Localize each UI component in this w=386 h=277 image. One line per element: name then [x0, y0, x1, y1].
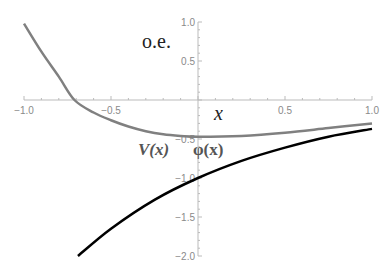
- label-oe: o.e.: [142, 30, 171, 53]
- svg-text:−1.0: −1.0: [14, 105, 34, 116]
- series-φ(x): [78, 129, 372, 256]
- label-x: x: [214, 102, 223, 125]
- svg-text:1.0: 1.0: [181, 17, 195, 28]
- svg-text:0.5: 0.5: [181, 56, 195, 67]
- label-V: V(x): [138, 140, 169, 160]
- svg-text:0.5: 0.5: [278, 105, 292, 116]
- label-phi: φ(x): [193, 140, 223, 160]
- svg-text:−2.0: −2.0: [175, 251, 195, 262]
- svg-text:−0.5: −0.5: [101, 105, 121, 116]
- svg-text:1.0: 1.0: [365, 105, 379, 116]
- svg-text:−1.0: −1.0: [175, 173, 195, 184]
- chart: −1.0−0.50.51.01.00.5−0.5−1.0−1.5−2.0: [0, 0, 386, 277]
- svg-text:−1.5: −1.5: [175, 212, 195, 223]
